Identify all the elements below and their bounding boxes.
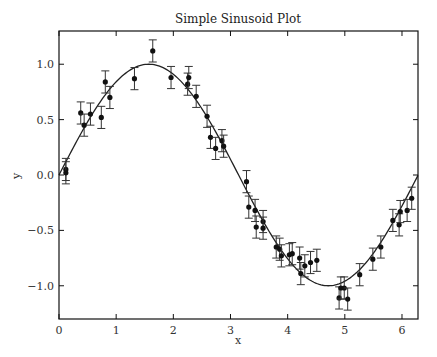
marker (405, 208, 410, 213)
marker (378, 244, 383, 249)
marker (99, 115, 104, 120)
marker (279, 253, 284, 258)
marker (246, 205, 251, 210)
marker (186, 75, 191, 80)
data-point (369, 248, 377, 270)
data-point (203, 105, 211, 127)
marker (78, 110, 83, 115)
data-point (259, 217, 267, 239)
marker (194, 94, 199, 99)
marker (302, 263, 307, 268)
marker (260, 226, 265, 231)
marker (103, 79, 108, 84)
marker (252, 208, 257, 213)
chart-title: Simple Sinusoid Plot (175, 12, 301, 26)
data-point (167, 66, 175, 88)
marker (244, 179, 249, 184)
y-tick-label: 0.0 (37, 169, 55, 182)
marker (345, 296, 350, 301)
x-tick-label: 3 (227, 324, 234, 337)
data-point (130, 68, 138, 90)
y-tick-label: −0.5 (27, 224, 54, 237)
data-point (149, 40, 157, 62)
marker (308, 260, 313, 265)
marker (204, 114, 209, 119)
marker (357, 272, 362, 277)
data-point (97, 106, 105, 128)
marker (398, 209, 403, 214)
data-point (313, 249, 321, 271)
x-axis: 0123456 (56, 31, 406, 337)
marker (290, 251, 295, 256)
data-point (101, 71, 109, 93)
x-tick-label: 5 (341, 324, 348, 337)
chart-canvas: Simple Sinusoid Plot 0123456 −1.0−0.50.0… (0, 0, 437, 357)
data-point (77, 102, 85, 124)
data-point (106, 86, 114, 108)
marker (185, 82, 190, 87)
y-tick-label: −1.0 (27, 280, 54, 293)
data-point (252, 216, 260, 238)
marker (132, 76, 137, 81)
y-tick-label: 1.0 (37, 58, 55, 71)
marker (390, 218, 395, 223)
marker (254, 224, 259, 229)
data-point (408, 187, 416, 209)
data-point (243, 171, 251, 193)
marker (221, 144, 226, 149)
marker (314, 258, 319, 263)
marker (213, 146, 218, 151)
plot-area (59, 40, 418, 310)
marker (150, 48, 155, 53)
marker (370, 257, 375, 262)
x-tick-label: 2 (170, 324, 177, 337)
y-axis: −1.0−0.50.00.51.0 (27, 58, 418, 293)
x-tick-label: 4 (284, 324, 291, 337)
marker (88, 111, 93, 116)
marker (82, 123, 87, 128)
y-tick-label: 0.5 (37, 114, 55, 127)
x-tick-label: 1 (113, 324, 120, 337)
sine-curve (59, 64, 418, 286)
marker (298, 271, 303, 276)
marker (168, 75, 173, 80)
marker (409, 196, 414, 201)
marker (297, 255, 302, 260)
marker (63, 170, 68, 175)
x-axis-label: x (235, 334, 242, 347)
marker (107, 95, 112, 100)
x-tick-label: 6 (398, 324, 405, 337)
y-axis-label: y (10, 172, 23, 180)
x-tick-label: 0 (56, 324, 63, 337)
